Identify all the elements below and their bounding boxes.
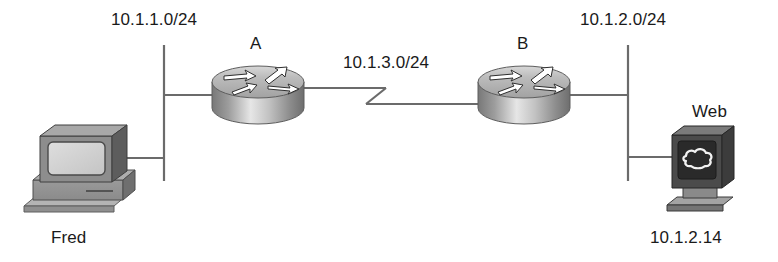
web-server-icon[interactable] xyxy=(667,126,734,211)
desktop-computer-icon[interactable] xyxy=(24,125,135,212)
label-host-fred: Fred xyxy=(51,228,86,248)
server-side xyxy=(722,126,734,188)
router-icon-a[interactable] xyxy=(212,66,304,124)
diagram-canvas xyxy=(0,0,778,262)
label-subnet-left: 10.1.1.0/24 xyxy=(111,10,197,30)
label-web-address: 10.1.2.14 xyxy=(650,228,722,248)
label-router-a: A xyxy=(250,34,261,54)
pc-base-shelf-edge xyxy=(24,206,114,212)
pc-screen xyxy=(48,142,105,175)
pc-chassis-front xyxy=(33,180,123,200)
router-icon-b[interactable] xyxy=(478,66,570,124)
link-wan-serial xyxy=(303,88,478,104)
server-base-edge xyxy=(667,205,723,211)
network-diagram: 10.1.1.0/24 A 10.1.3.0/24 B 10.1.2.0/24 … xyxy=(0,0,778,262)
label-host-web: Web xyxy=(692,102,727,122)
label-router-b: B xyxy=(517,34,528,54)
link-lan-right xyxy=(570,45,672,181)
serial-zigzag-marker xyxy=(366,88,386,104)
label-subnet-serial: 10.1.3.0/24 xyxy=(343,53,429,73)
label-subnet-right: 10.1.2.0/24 xyxy=(580,10,666,30)
